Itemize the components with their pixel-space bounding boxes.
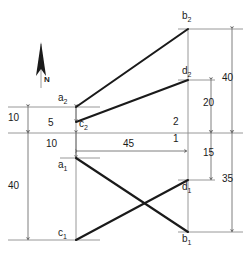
point-label-b2: b2 bbox=[182, 11, 191, 23]
segment-c1-d1 bbox=[76, 180, 188, 240]
point-label-a2: a2 bbox=[58, 93, 67, 105]
dim-label-left-10: 10 bbox=[8, 113, 19, 123]
segment-a2-b2 bbox=[76, 29, 188, 107]
axis-label-1: 1 bbox=[173, 134, 179, 144]
dim-label-right-35: 35 bbox=[222, 174, 233, 184]
point-label-a1: a1 bbox=[58, 160, 67, 172]
dim-label-45: 45 bbox=[123, 139, 134, 149]
point-label-c1: c1 bbox=[58, 228, 67, 240]
dim-label-right-20: 20 bbox=[203, 98, 214, 108]
dimension-arrow-group bbox=[28, 29, 232, 240]
point-label-b1: b1 bbox=[182, 234, 191, 246]
north-arrow-label: N bbox=[44, 76, 50, 84]
diagram-canvas: a2 c2 b2 d2 a1 c1 d1 b1 2 1 5 10 40 10 4… bbox=[0, 0, 251, 255]
dim-label-inner-10: 10 bbox=[46, 139, 57, 149]
axis-label-5: 5 bbox=[48, 118, 54, 128]
survey-diagram-svg bbox=[0, 0, 251, 255]
dim-label-right-40: 40 bbox=[222, 73, 233, 83]
point-label-c2: c2 bbox=[79, 119, 88, 131]
point-label-d2: d2 bbox=[182, 66, 191, 78]
figure-line-group bbox=[76, 29, 188, 240]
segment-a1-b1 bbox=[76, 158, 188, 232]
segment-c2-d2 bbox=[76, 80, 188, 122]
point-label-d1: d1 bbox=[182, 182, 191, 194]
axis-label-2: 2 bbox=[173, 117, 179, 127]
dim-label-right-15: 15 bbox=[203, 148, 214, 158]
dim-label-left-40: 40 bbox=[8, 181, 19, 191]
